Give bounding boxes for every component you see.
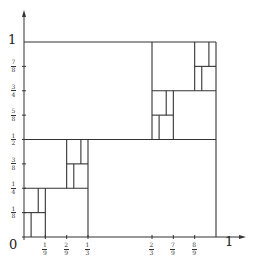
y-tick-label: 12	[11, 133, 16, 147]
denominator: 4	[12, 92, 16, 98]
numerator: 1	[12, 181, 16, 187]
y-axis-end-label: 1	[8, 33, 16, 46]
numerator: 1	[12, 133, 16, 139]
box-segments	[24, 42, 216, 237]
numerator: 7	[12, 59, 16, 65]
numerator: 1	[43, 242, 47, 248]
x-tick-label: 79	[170, 242, 175, 256]
y-tick-label: 38	[11, 157, 16, 171]
y-tick-label: 18	[11, 206, 16, 220]
axes	[22, 10, 246, 240]
denominator: 9	[171, 250, 175, 256]
denominator: 9	[43, 250, 47, 256]
denominator: 4	[12, 189, 16, 195]
numerator: 1	[86, 242, 90, 248]
y-tick-label: 34	[11, 84, 16, 98]
numerator: 3	[12, 84, 16, 90]
x-tick-label: 23	[149, 242, 154, 256]
y-tick-label: 14	[11, 181, 16, 195]
denominator: 8	[12, 67, 16, 73]
y-tick-label: 78	[11, 59, 16, 73]
denominator: 3	[86, 250, 90, 256]
x-tick-label: 89	[192, 242, 197, 256]
y-axis-arrow-icon	[22, 10, 26, 17]
numerator: 8	[192, 242, 196, 248]
denominator: 9	[64, 250, 68, 256]
numerator: 2	[150, 242, 154, 248]
origin-label: 0	[9, 238, 17, 251]
numerator: 2	[64, 242, 68, 248]
denominator: 3	[150, 250, 154, 256]
x-tick-label: 13	[85, 242, 90, 256]
axis-ticks	[22, 66, 195, 239]
denominator: 8	[12, 116, 16, 122]
x-axis-arrow-icon	[239, 235, 246, 239]
x-tick-label: 29	[64, 242, 69, 256]
denominator: 8	[12, 165, 16, 171]
x-axis-end-label: 1	[225, 235, 233, 248]
numerator: 5	[12, 108, 16, 114]
denominator: 9	[192, 250, 196, 256]
numerator: 7	[171, 242, 175, 248]
numerator: 1	[12, 206, 16, 212]
denominator: 2	[12, 140, 16, 146]
numerator: 3	[12, 157, 16, 163]
diagram-canvas	[0, 0, 256, 258]
x-tick-label: 19	[42, 242, 47, 256]
denominator: 8	[12, 213, 16, 219]
y-tick-label: 58	[11, 108, 16, 122]
